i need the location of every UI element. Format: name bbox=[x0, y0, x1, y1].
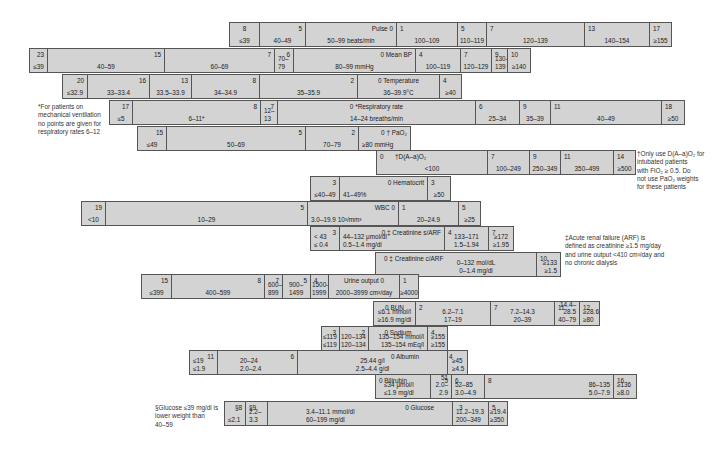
row-pao2: 15 ≤49 5 50–69 2 70–79 0 † PaO₂ ≥80 mmHg bbox=[137, 126, 147, 151]
creat-cell: 7 ≥172 ≥1.95 bbox=[488, 226, 514, 251]
resp-cell: 8 6–11* bbox=[132, 100, 260, 125]
aado2-cell: 7 100–249 bbox=[487, 150, 529, 175]
bun-cell: 2 6.2–7.1 17–19 bbox=[415, 301, 490, 326]
glucose-cell: §8 ≤2.1 bbox=[224, 401, 245, 426]
glucose-cell: 5 ≥19.4 ≥350 bbox=[488, 401, 508, 426]
pulse-normal-cell: Pulse 0 50–99 beats/min bbox=[305, 22, 396, 47]
bilirubin-normal-cell: 0 Bilirubin ≤34 μmol/l ≤1.9 mg/dl bbox=[375, 374, 430, 399]
sodium-cell: 3 ≤119 ≤119 bbox=[321, 326, 339, 351]
row-sodium: 3 ≤119 ≤119 2 120–134 120–134 0 Sodium 1… bbox=[321, 326, 331, 351]
albumin-cell: 6 20–24 2.0–2.4 bbox=[217, 350, 297, 375]
urine-cell: 5 900– 1499 bbox=[282, 274, 310, 299]
pulse-cell: 8 ≤39 bbox=[229, 22, 259, 47]
row-mean-bp: 23 ≤39 15 40–59 7 60–69 6 70– 79 0 Mean … bbox=[29, 48, 39, 73]
albumin-cell: 11 ≤19 ≤1.9 bbox=[189, 350, 217, 375]
wbc-normal-cell: WBC 0 3.0–19.9 10³/mm³ bbox=[307, 201, 398, 226]
bilirubin-cell: 8 86–135 5.0–7.9 bbox=[484, 374, 613, 399]
resp-cell: 7 12– 13 bbox=[260, 100, 277, 125]
pulse-cell: 5 40–49 bbox=[259, 22, 305, 47]
urine-cell: 1 ≥4000 bbox=[399, 274, 419, 299]
resp-cell: 11 40–49 bbox=[550, 100, 661, 125]
hct-normal-cell: 0 Hematocrit 41–49% bbox=[339, 176, 427, 201]
creat-cell: 4 133–171 1.5–1.94 bbox=[444, 226, 488, 251]
pao2-label: 0 † PaO₂ bbox=[381, 129, 407, 136]
creat-cell: 3 < 43 ≤ 0.4 bbox=[310, 226, 339, 251]
wbc-cell: 1 20–24.9 bbox=[398, 201, 458, 226]
wbc-cell: 5 ≥25 bbox=[458, 201, 481, 226]
bilirubin-cell: 16 ≥136 ≥8.0 bbox=[613, 374, 637, 399]
bun-normal-cell: 0 BUN ≤6.1 mmol/l ≥16.9 mg/dl bbox=[373, 301, 415, 326]
glucose-footnote: §Glucose ≤39 mg/dl is lower weight than … bbox=[155, 404, 218, 429]
bp-cell: 9 130– 139 bbox=[491, 48, 507, 73]
row-pulse: 8 ≤39 5 40–49 Pulse 0 50–99 beats/min 1 … bbox=[229, 22, 313, 47]
aado2-cell: 11 350–499 bbox=[560, 150, 613, 175]
pulse-cell: 1 100–109 bbox=[396, 22, 457, 47]
resp-normal-cell: 0 *Respiratory rate 14–24 breaths/min bbox=[277, 100, 475, 125]
urine-cell: 7 600– 899 bbox=[264, 274, 282, 299]
bp-cell: 6 70– 79 bbox=[274, 48, 293, 73]
bp-cell: 4 100–119 bbox=[415, 48, 460, 73]
pulse-cell: 7 120–139 bbox=[486, 22, 584, 47]
row-aado2: 0 †D(A–a)O₂ <100 7 100–249 9 250–349 11 … bbox=[376, 150, 386, 175]
bp-normal-cell: 0 Mean BP 80–99 mmHg bbox=[293, 48, 415, 73]
arf-footnote: ‡Acute renal failure (ARF) is defined as… bbox=[565, 234, 664, 267]
temp-cell: 2 35–35.9 bbox=[259, 74, 357, 99]
row-hematocrit: 3 ≤40–49 0 Hematocrit 41–49% 3 ≥50 bbox=[310, 176, 320, 201]
pao2-cell: 5 50–69 bbox=[166, 126, 305, 151]
row-glucose: §8 ≤2.1 §9 2.2–3.3 0 Glucose 3.4–11.1 mm… bbox=[224, 401, 234, 426]
bun-cell: 11 14.4–28.5 40–79 bbox=[554, 301, 579, 326]
temp-normal-cell: 0 Temperature 36–39.9°C bbox=[357, 74, 439, 99]
row-urine-output: 15 ≤399 8 400–599 7 600– 899 5 900– 1499… bbox=[141, 274, 151, 299]
bilirubin-cell: 6 52–85 3.0–4.9 bbox=[451, 374, 484, 399]
row-bun: 0 BUN ≤6.1 mmol/l ≥16.9 mg/dl 2 6.2–7.1 … bbox=[373, 301, 383, 326]
urine-cell: 15 ≤399 bbox=[141, 274, 171, 299]
glucose-cell: §9 2.2–3.3 bbox=[245, 401, 267, 426]
pao2-cell: 2 70–79 bbox=[305, 126, 358, 151]
temp-cell: 4 ≥40 bbox=[439, 74, 462, 99]
sodium-cell: 4 ≥155 ≥155 bbox=[427, 326, 448, 351]
urine-cell: 4 1500– 1999 bbox=[310, 274, 328, 299]
wbc-cell: 19 <10 bbox=[81, 201, 105, 226]
aado2-label: †D(A–a)O₂ bbox=[395, 153, 426, 160]
temperature-label: 0 Temperature bbox=[358, 77, 439, 84]
resp-cell: 18 ≥50 bbox=[661, 100, 685, 125]
pulse-cell: 5 110–119 bbox=[457, 22, 486, 47]
glucose-normal-cell: 0 Glucose 3.4–11.1 mmol/dl 60–199 mg/dl bbox=[267, 401, 452, 426]
glucose-cell: 3 11.2–19.3 200–349 bbox=[452, 401, 488, 426]
wbc-cell: 5 10–29 bbox=[105, 201, 307, 226]
aado2-cell: 9 250–349 bbox=[529, 150, 560, 175]
albumin-normal-cell: 0 Albumin 25.44 g/l 2.5–4.4 g/dl bbox=[297, 350, 447, 375]
row-bilirubin: 0 Bilirubin ≤34 μmol/l ≤1.9 mg/dl 5 35–5… bbox=[375, 374, 385, 399]
temp-cell: 13 33.5–33.9 bbox=[149, 74, 191, 99]
hct-cell: 3 ≥50 bbox=[427, 176, 451, 201]
row-creatinine-sarf: 3 < 43 ≤ 0.4 0 ‡ Creatinine s/ARF 44–132… bbox=[310, 226, 320, 251]
row-resp-rate: 17 ≤5 8 6–11* 7 12– 13 0 *Respiratory ra… bbox=[109, 100, 119, 125]
row-temperature: 20 ≤32.9 16 33–33.4 13 33.5–33.9 8 34–34… bbox=[62, 74, 72, 99]
resp-cell: 9 35–39 bbox=[519, 100, 550, 125]
resp-cell: 17 ≤5 bbox=[109, 100, 132, 125]
creat-normal-cell: 0 ‡ Creatinine s/ARF 44–132 μmol/dl 0.5–… bbox=[339, 226, 444, 251]
bun-cell: 12 ≥28.6 ≥80 bbox=[579, 301, 600, 326]
hematocrit-label: 0 Hematocrit bbox=[388, 179, 424, 186]
aado2-footnote: †Only use D(A–a)O₂ for intubated patient… bbox=[637, 150, 704, 192]
aado2-cell: 14 ≥500 bbox=[613, 150, 636, 175]
bp-cell: 7 60–69 bbox=[164, 48, 274, 73]
albumin-cell: 4 ≥45 ≥4.5 bbox=[447, 350, 468, 375]
row-wbc: 19 <10 5 10–29 WBC 0 3.0–19.9 10³/mm³ 1 … bbox=[81, 201, 91, 226]
bilirubin-cell: 5 35–51 2.0–2.9 bbox=[430, 374, 451, 399]
pao2-cell: 15 ≤49 bbox=[137, 126, 166, 151]
resp-rate-label: 0 *Respiratory rate bbox=[278, 103, 475, 110]
bp-cell: 23 ≤39 bbox=[29, 48, 47, 73]
temp-cell: 16 33–33.4 bbox=[87, 74, 149, 99]
temp-cell: 20 ≤32.9 bbox=[62, 74, 87, 99]
sodium-cell: 2 120–134 120–134 bbox=[339, 326, 368, 351]
temp-cell: 8 34–34.9 bbox=[191, 74, 259, 99]
creat-carf-cell: 10 ≥133 ≥1.5 bbox=[536, 252, 561, 277]
row-albumin: 11 ≤19 ≤1.9 6 20–24 2.0–2.4 0 Albumin 25… bbox=[189, 350, 199, 375]
urine-cell: 8 400–599 bbox=[171, 274, 264, 299]
pulse-cell: 13 140–154 bbox=[584, 22, 649, 47]
bp-cell: 15 40–59 bbox=[47, 48, 164, 73]
hct-cell: 3 ≤40–49 bbox=[310, 176, 339, 201]
urine-normal-cell: Urine output 0 2000–3999 cm³/day bbox=[328, 274, 399, 299]
pulse-cell: 17 ≥155 bbox=[649, 22, 672, 47]
